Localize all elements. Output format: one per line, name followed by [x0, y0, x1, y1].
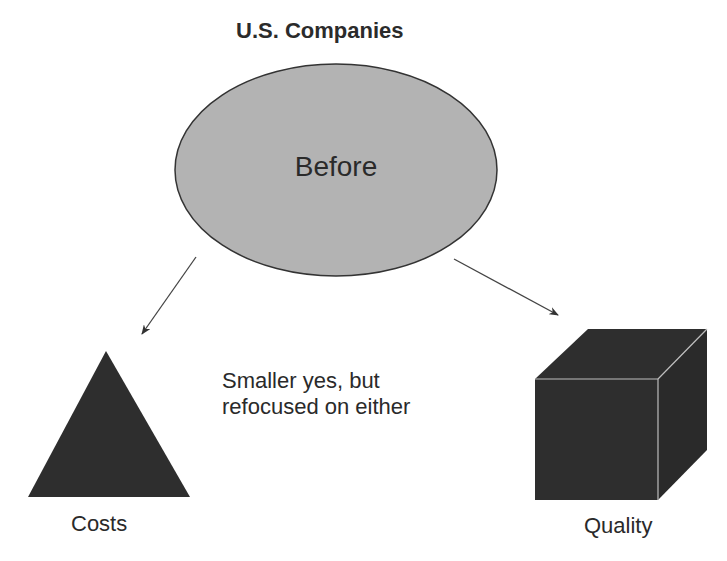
costs-label: Costs	[71, 511, 127, 537]
costs-triangle	[28, 351, 190, 497]
diagram-canvas	[0, 0, 727, 561]
arrow-to-costs	[142, 257, 196, 334]
quality-cube	[535, 329, 707, 500]
before-label: Before	[175, 151, 497, 183]
quality-label: Quality	[584, 513, 652, 539]
annotation-line-1: Smaller yes, but	[222, 368, 410, 394]
annotation-line-2: refocused on either	[222, 394, 410, 420]
arrow-to-quality	[454, 259, 558, 315]
annotation-text: Smaller yes, but refocused on either	[222, 368, 410, 420]
